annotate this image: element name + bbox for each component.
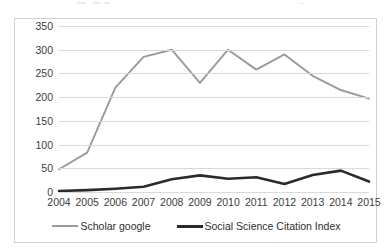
gridline [59, 50, 369, 51]
x-axis: 2004200520062007200820092010201120122013… [59, 196, 369, 212]
top-text-smudge-4 [300, 3, 305, 4]
legend-item-label: Social Science Citation Index [205, 220, 341, 232]
legend-item-2[interactable]: Social Science Citation Index [177, 220, 341, 232]
y-axis-tick-label: 250 [21, 68, 53, 78]
legend-line-icon [177, 225, 203, 228]
gridline [59, 97, 369, 98]
x-axis-tick-label: 2014 [329, 196, 352, 208]
gridline [59, 168, 369, 169]
x-axis-tick-label: 2013 [301, 196, 324, 208]
x-axis-tick-label: 2009 [188, 196, 211, 208]
top-text-smudge-1 [77, 2, 86, 4]
chart-container: 050100150200250300350 200420052006200720… [14, 18, 377, 243]
y-axis-tick-label: 50 [21, 163, 53, 173]
y-axis-tick-label: 150 [21, 116, 53, 126]
x-axis-tick-label: 2011 [245, 196, 268, 208]
y-axis-tick-label: 100 [21, 140, 53, 150]
legend-item-1[interactable]: Scholar google [52, 220, 150, 232]
x-axis-tick-label: 2007 [132, 196, 155, 208]
chart-plot-wrapper: 050100150200250300350 200420052006200720… [15, 19, 378, 244]
chart-legend: Scholar googleSocial Science Citation In… [15, 215, 378, 237]
plot-area [59, 26, 369, 192]
gridline [59, 26, 369, 27]
legend-line-icon [52, 225, 78, 227]
gridline [59, 121, 369, 122]
series-line-2 [59, 171, 369, 191]
gridline [59, 145, 369, 146]
x-axis-tick-label: 2004 [47, 196, 70, 208]
y-axis-tick-label: 200 [21, 92, 53, 102]
x-axis-tick-label: 2008 [160, 196, 183, 208]
y-axis-tick-label: 300 [21, 45, 53, 55]
top-text-smudge-3 [104, 2, 110, 4]
x-axis-tick-label: 2012 [273, 196, 296, 208]
gridline [59, 73, 369, 74]
x-axis-tick-label: 2005 [75, 196, 98, 208]
series-lines [59, 26, 369, 192]
series-line-1 [59, 50, 369, 170]
y-axis: 050100150200250300350 [21, 19, 53, 244]
gridline [59, 192, 369, 193]
top-text-smudge-2 [93, 2, 100, 4]
x-axis-tick-label: 2010 [216, 196, 239, 208]
y-axis-tick-label: 350 [21, 21, 53, 31]
x-axis-tick-label: 2015 [357, 196, 380, 208]
x-axis-tick-label: 2006 [104, 196, 127, 208]
legend-item-label: Scholar google [80, 220, 150, 232]
